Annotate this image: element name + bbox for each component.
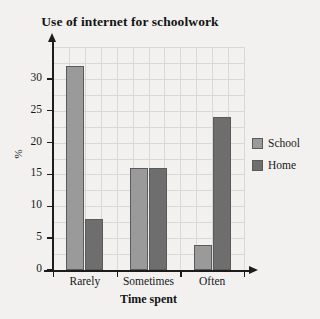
legend-item-home[interactable]: Home <box>252 156 300 174</box>
plot-area <box>53 47 244 270</box>
y-axis-tick-label: 25 <box>14 103 42 115</box>
y-axis-tick <box>47 110 53 111</box>
legend-item-school[interactable]: School <box>252 134 300 152</box>
chart-title: Use of internet for schoolwork <box>0 14 260 30</box>
x-axis-line <box>44 270 251 272</box>
x-axis-tick <box>244 270 245 277</box>
y-axis-line <box>52 40 54 271</box>
bar-home-often <box>213 117 231 270</box>
chart-legend: SchoolHome <box>252 134 300 178</box>
y-axis-tick-label: 5 <box>14 230 42 242</box>
y-axis-tick <box>47 206 53 207</box>
y-axis-tick-label: 30 <box>14 71 42 83</box>
y-axis-tick <box>47 174 53 175</box>
legend-label-home: Home <box>268 159 296 171</box>
y-axis-tick-label: 20 <box>14 135 42 147</box>
y-axis-arrowhead <box>48 33 56 42</box>
bar-school-sometimes <box>130 168 148 270</box>
y-axis-tick-label: 15 <box>14 166 42 178</box>
x-axis-tick-label-sometimes: Sometimes <box>117 275 181 287</box>
legend-swatch-school <box>252 138 263 149</box>
bar-chart: Use of internet for schoolwork 051015202… <box>0 0 320 319</box>
bar-school-rarely <box>66 66 84 270</box>
y-axis-tick <box>47 142 53 143</box>
grid-line-vertical <box>244 47 245 270</box>
bar-home-sometimes <box>149 168 167 270</box>
x-axis-tick-label-often: Often <box>180 275 244 287</box>
bars-container <box>53 47 244 270</box>
x-axis-title: Time spent <box>53 292 244 307</box>
legend-label-school: School <box>268 137 300 149</box>
bar-home-rarely <box>85 219 103 270</box>
x-axis-arrowhead <box>249 266 258 274</box>
y-axis-tick-label: 10 <box>14 198 42 210</box>
y-axis-tick <box>47 78 53 79</box>
y-axis-tick-label: 0 <box>14 262 42 274</box>
y-axis-title: % <box>12 149 24 158</box>
y-axis-tick <box>47 237 53 238</box>
x-axis-tick-label-rarely: Rarely <box>53 275 117 287</box>
bar-school-often <box>194 245 212 271</box>
legend-swatch-home <box>252 160 263 171</box>
